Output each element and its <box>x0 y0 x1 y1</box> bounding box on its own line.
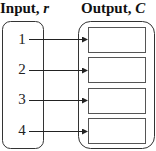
output-set-box <box>79 22 155 149</box>
output-box-1 <box>89 28 146 53</box>
output-box-3 <box>89 89 146 114</box>
input-value-3: 3 <box>15 91 29 108</box>
output-box-2 <box>89 58 146 83</box>
input-value-4: 4 <box>15 122 29 139</box>
input-value-2: 2 <box>15 61 29 78</box>
input-value-1: 1 <box>15 31 29 48</box>
output-box-4 <box>89 119 146 144</box>
